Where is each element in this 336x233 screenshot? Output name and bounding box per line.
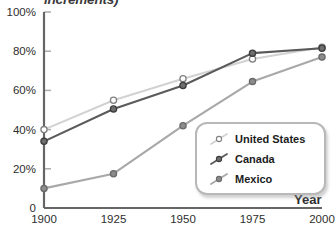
- legend-marker-icon: [209, 172, 229, 186]
- data-point-marker: [41, 185, 47, 191]
- x-tick-label: 1900: [31, 213, 57, 225]
- data-point-marker: [180, 82, 186, 88]
- data-point-marker: [180, 123, 186, 129]
- legend-item: Mexico: [209, 170, 324, 188]
- legend-label: United States: [235, 133, 305, 145]
- y-tick-label: 40%: [0, 124, 36, 136]
- plot-area: [0, 0, 336, 233]
- x-tick-label: 1975: [240, 213, 266, 225]
- y-tick-label: 100%: [0, 6, 36, 18]
- data-point-marker: [319, 45, 325, 51]
- data-point-marker: [110, 106, 116, 112]
- legend-label: Mexico: [235, 173, 272, 185]
- data-point-marker: [110, 171, 116, 177]
- data-point-marker: [180, 76, 186, 82]
- data-point-marker: [110, 97, 116, 103]
- legend-item: United States: [209, 130, 324, 148]
- data-point-marker: [249, 78, 255, 84]
- data-point-marker: [41, 127, 47, 133]
- data-point-marker: [41, 138, 47, 144]
- y-tick-label: 80%: [0, 45, 36, 57]
- legend-label: Canada: [235, 153, 275, 165]
- x-tick-label: 1950: [170, 213, 196, 225]
- line-chart: increments) 020%40%60%80%100% 1900192519…: [0, 0, 336, 233]
- legend-marker-icon: [209, 152, 229, 166]
- y-tick-label: 20%: [0, 163, 36, 175]
- x-tick-label: 1925: [101, 213, 127, 225]
- data-point-marker: [319, 54, 325, 60]
- data-point-marker: [249, 50, 255, 56]
- legend-marker-icon: [209, 132, 229, 146]
- legend-item: Canada: [209, 150, 324, 168]
- legend: United StatesCanadaMexico: [195, 122, 326, 195]
- y-tick-label: 60%: [0, 84, 36, 96]
- x-tick-label: 2000: [309, 213, 335, 225]
